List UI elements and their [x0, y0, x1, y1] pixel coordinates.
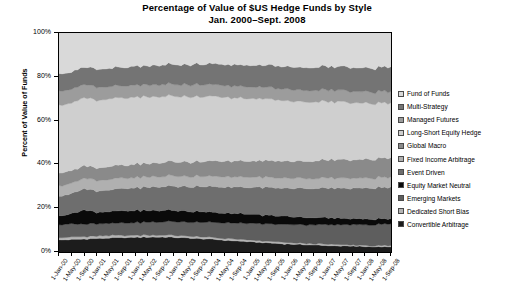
y-axis-label: 20%: [0, 203, 51, 210]
legend: Fund of FundsMulti-StrategyManaged Futur…: [398, 87, 514, 231]
legend-item-fixed-income-arbitrage[interactable]: Fixed Income Arbitrage: [398, 152, 514, 165]
legend-item-managed-futures[interactable]: Managed Futures: [398, 113, 514, 126]
legend-swatch-icon: [398, 221, 404, 227]
y-axis-label: 0%: [0, 247, 51, 254]
plot-area: [58, 32, 392, 253]
legend-label: Multi-Strategy: [407, 103, 448, 110]
legend-label: Global Macro: [407, 142, 446, 149]
legend-item-global-macro[interactable]: Global Macro: [398, 139, 514, 152]
legend-item-convertible-arbitrage[interactable]: Convertible Arbitrage: [398, 218, 514, 231]
legend-item-event-driven[interactable]: Event Driven: [398, 166, 514, 179]
legend-label: Equity Market Neutral: [407, 182, 470, 189]
legend-swatch-icon: [398, 169, 404, 175]
legend-swatch-icon: [398, 182, 404, 188]
legend-label: Event Driven: [407, 169, 445, 176]
chart-title-block: Percentage of Value of $US Hedge Funds b…: [0, 2, 514, 25]
plot-clip: [59, 33, 391, 252]
legend-swatch-icon: [398, 91, 404, 97]
legend-swatch-icon: [398, 104, 404, 110]
legend-swatch-icon: [398, 130, 404, 136]
legend-label: Dedicated Short Bias: [407, 208, 469, 215]
legend-label: Fund of Funds: [407, 90, 450, 97]
y-axis-label: 80%: [0, 72, 51, 79]
legend-item-equity-market-neutral[interactable]: Equity Market Neutral: [398, 179, 514, 192]
legend-swatch-icon: [398, 117, 404, 123]
legend-label: Convertible Arbitrage: [407, 221, 469, 228]
legend-swatch-icon: [398, 208, 404, 214]
y-axis-label: 60%: [0, 116, 51, 123]
legend-label: Emerging Markets: [407, 195, 461, 202]
stacked-area-series-group: [59, 33, 391, 252]
legend-item-fund-of-funds[interactable]: Fund of Funds: [398, 87, 514, 100]
y-axis-label: 100%: [0, 28, 51, 35]
chart-title: Percentage of Value of $US Hedge Funds b…: [0, 2, 514, 14]
chart-subtitle: Jan. 2000–Sept. 2008: [0, 14, 514, 26]
legend-item-dedicated-short-bias[interactable]: Dedicated Short Bias: [398, 205, 514, 218]
legend-label: Fixed Income Arbitrage: [407, 156, 475, 163]
legend-label: Managed Futures: [407, 116, 459, 123]
chart-figure: Percentage of Value of $US Hedge Funds b…: [0, 0, 514, 294]
legend-swatch-icon: [398, 195, 404, 201]
y-axis-label: 40%: [0, 159, 51, 166]
legend-item-multi-strategy[interactable]: Multi-Strategy: [398, 100, 514, 113]
legend-swatch-icon: [398, 156, 404, 162]
legend-label: Long-Short Equity Hedge: [407, 129, 481, 136]
legend-item-emerging-markets[interactable]: Emerging Markets: [398, 192, 514, 205]
legend-item-long-short-equity-hedge[interactable]: Long-Short Equity Hedge: [398, 126, 514, 139]
legend-swatch-icon: [398, 143, 404, 149]
